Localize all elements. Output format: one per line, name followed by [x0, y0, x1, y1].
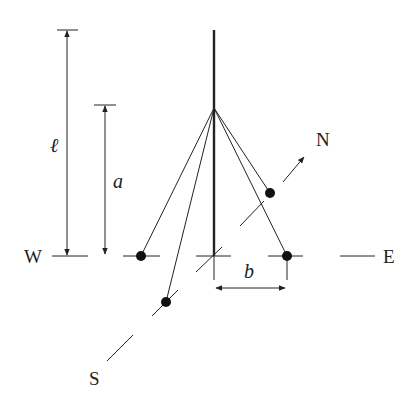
height-label: a: [113, 170, 123, 192]
north-arrow: [283, 157, 304, 182]
south-label: S: [89, 368, 100, 389]
offset-dimension: b: [216, 260, 285, 288]
offset-label: b: [244, 260, 254, 282]
north-label: N: [316, 129, 330, 150]
bob-north: [265, 188, 275, 198]
length-label: ℓ: [50, 134, 59, 156]
diagram-canvas: ℓ a W E N S: [0, 0, 414, 405]
north-ball-tick: [240, 201, 264, 226]
length-dimension: ℓ: [50, 30, 78, 255]
south-axis-segment: [107, 335, 133, 361]
pendulum-diagram: ℓ a W E N S: [0, 0, 414, 405]
east-label: E: [383, 246, 395, 267]
bob-south: [161, 297, 171, 307]
height-dimension: a: [94, 105, 123, 254]
west-label: W: [24, 246, 42, 267]
bob-west: [136, 251, 146, 261]
bob-east: [282, 251, 292, 261]
origin-diagonal-tick: [196, 247, 222, 272]
